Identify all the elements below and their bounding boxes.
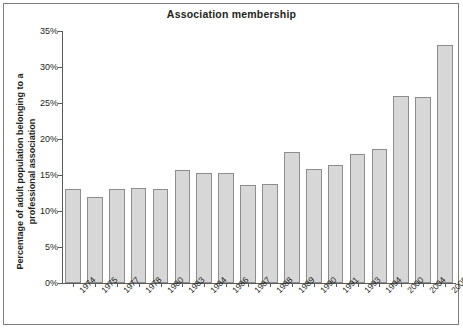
bar <box>284 152 300 283</box>
bar <box>153 189 169 283</box>
x-axis-tick-label: 1975 <box>99 288 106 295</box>
bar <box>196 173 212 283</box>
x-axis-tick-label: 1994 <box>383 288 390 295</box>
x-axis-tick-label: 2005 <box>449 288 456 295</box>
x-axis-tick-label: 1991 <box>340 288 347 295</box>
x-axis-tick-label: 1983 <box>186 288 193 295</box>
x-axis-tick-label: 1984 <box>208 288 215 295</box>
x-axis-tick-label: 1978 <box>143 288 150 295</box>
bar <box>218 173 234 283</box>
bar <box>437 45 453 283</box>
x-axis-labels: 1974197519771978198019831984198619871988… <box>62 288 456 324</box>
bar <box>372 149 388 283</box>
x-axis-tick-label: 1980 <box>165 288 172 295</box>
bar <box>109 189 125 283</box>
chart-figure: Association membership Percentage of adu… <box>0 0 463 330</box>
y-axis-tick: 30% <box>40 62 62 72</box>
bar <box>350 154 366 283</box>
x-axis-tick-label: 1989 <box>296 288 303 295</box>
x-axis-tick-label: 1986 <box>230 288 237 295</box>
chart-title: Association membership <box>0 8 463 20</box>
x-axis-tick-label: 1974 <box>77 288 84 295</box>
bar <box>87 197 103 283</box>
x-axis-tick-label: 1988 <box>274 288 281 295</box>
x-axis-tick-label: 1993 <box>362 288 369 295</box>
x-axis-tick-label: 1987 <box>252 288 259 295</box>
bar <box>175 170 191 283</box>
bar <box>328 165 344 283</box>
bar <box>262 184 278 283</box>
y-axis-tick: 25% <box>40 98 62 108</box>
x-axis-tick-mark <box>73 283 74 287</box>
bar <box>393 96 409 283</box>
bar <box>131 188 147 283</box>
plot-area: 0%5%10%15%20%25%30%35% <box>62 31 456 283</box>
x-axis-tick-label: 2000 <box>405 288 412 295</box>
y-axis-tick: 35% <box>40 26 62 36</box>
y-axis-tick: 15% <box>40 170 62 180</box>
x-axis-tick-label: 1977 <box>121 288 128 295</box>
y-axis-label: Percentage of adult population belonging… <box>15 54 38 290</box>
bar <box>306 169 322 283</box>
bar <box>415 97 431 283</box>
x-axis-tick-label: 1990 <box>318 288 325 295</box>
x-axis-tick-label: 2004 <box>427 288 434 295</box>
bar <box>240 185 256 283</box>
bar-series <box>62 31 456 283</box>
y-axis-tick: 5% <box>45 242 62 252</box>
y-axis-tick: 10% <box>40 206 62 216</box>
y-axis-tick: 20% <box>40 134 62 144</box>
bar <box>65 189 81 283</box>
y-axis-tick: 0% <box>45 278 62 288</box>
